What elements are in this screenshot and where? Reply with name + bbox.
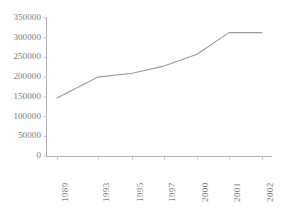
line-chart: 0500001000001500002000002500003000003500… <box>0 0 284 209</box>
x-axis-tick-label: 2002 <box>266 182 275 202</box>
x-axis-tick-label: 2001 <box>233 182 242 202</box>
x-axis-tick-labels: 1989199319951997200020012002 <box>0 0 284 209</box>
x-axis-tick-label: 1993 <box>102 182 111 202</box>
x-axis-tick-label: 1995 <box>136 182 145 202</box>
x-axis-tick-label: 1989 <box>61 182 70 202</box>
x-axis-tick-label: 1997 <box>168 182 177 202</box>
x-axis-tick-label: 2000 <box>201 182 210 202</box>
